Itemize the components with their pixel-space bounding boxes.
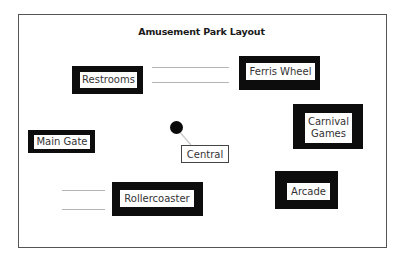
- rollercoaster-line-lower: [62, 209, 105, 210]
- rollercoaster-label: Rollercoaster: [120, 190, 194, 207]
- rollercoaster-line-upper: [62, 190, 105, 191]
- central-callout-line: [0, 0, 403, 262]
- arcade-label: Arcade: [287, 183, 330, 200]
- arcade-box: Arcade: [275, 171, 338, 209]
- central-marker-icon: [170, 121, 183, 134]
- rollercoaster-box: Rollercoaster: [112, 182, 203, 216]
- central-label: Central: [181, 145, 229, 163]
